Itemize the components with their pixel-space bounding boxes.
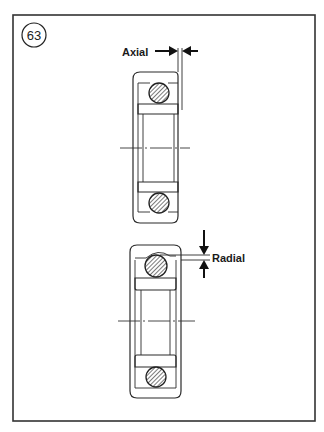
radial-bearing <box>118 245 210 398</box>
ball-bottom <box>146 367 166 387</box>
ball-top <box>149 83 169 103</box>
arrow-up-icon <box>199 260 209 269</box>
arrow-right-icon <box>169 46 178 56</box>
axial-label: Axial <box>122 46 148 58</box>
radial-arrows <box>199 230 209 278</box>
axial-bearing <box>120 48 190 223</box>
arrow-left-icon <box>182 46 191 56</box>
figure-number-badge: 63 <box>22 23 46 47</box>
radial-label: Radial <box>212 252 245 264</box>
figure-frame <box>13 15 315 421</box>
figure-number: 63 <box>27 28 41 43</box>
axial-arrows <box>155 46 198 56</box>
arrow-down-icon <box>199 246 209 255</box>
ball-bottom <box>149 193 169 213</box>
figure-canvas: 63 Axial <box>0 0 324 432</box>
ball-top <box>145 255 167 277</box>
